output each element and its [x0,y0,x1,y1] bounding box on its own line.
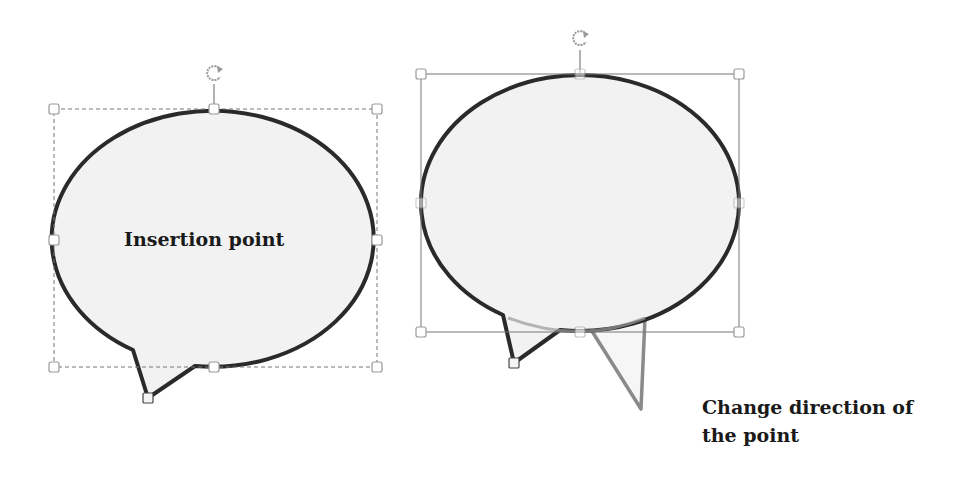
caption-line-1: Change direction of [702,393,952,421]
rotate-icon[interactable] [207,66,223,80]
resize-handle-bottom-left[interactable] [416,327,426,337]
resize-handle-top-right[interactable] [734,69,744,79]
insertion-point-label: Insertion point [124,228,284,250]
resize-handle-bottom[interactable] [209,362,219,372]
resize-handle-top-left[interactable] [416,69,426,79]
rotate-icon[interactable] [573,31,589,45]
resize-handle-bottom[interactable] [575,327,585,337]
change-direction-caption: Change direction of the point [702,393,952,449]
caption-line-2: the point [702,421,952,449]
resize-handle-bottom-left[interactable] [49,362,59,372]
resize-handle-top[interactable] [209,104,219,114]
resize-handle-top[interactable] [575,69,585,79]
pointer-adjust-handle[interactable] [143,393,153,403]
resize-handle-bottom-right[interactable] [734,327,744,337]
pointer-adjust-handle[interactable] [509,358,519,368]
resize-handle-right[interactable] [372,235,382,245]
resize-handle-bottom-right[interactable] [372,362,382,372]
left-callout-shape[interactable] [52,111,374,398]
resize-handle-top-left[interactable] [49,104,59,114]
resize-handle-left[interactable] [416,198,426,208]
resize-handle-left[interactable] [49,235,59,245]
resize-handle-top-right[interactable] [372,104,382,114]
resize-handle-right[interactable] [734,198,744,208]
right-callout-shape[interactable] [421,75,739,363]
